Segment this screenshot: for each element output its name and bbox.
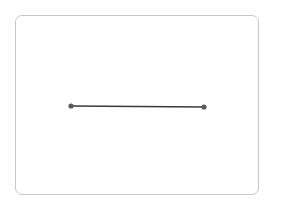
- line-segment-diagram: [0, 0, 284, 215]
- start-point-handle[interactable]: [68, 103, 73, 108]
- end-point-handle[interactable]: [201, 104, 206, 109]
- line-segment[interactable]: [71, 106, 204, 107]
- drawing-canvas: [0, 0, 284, 215]
